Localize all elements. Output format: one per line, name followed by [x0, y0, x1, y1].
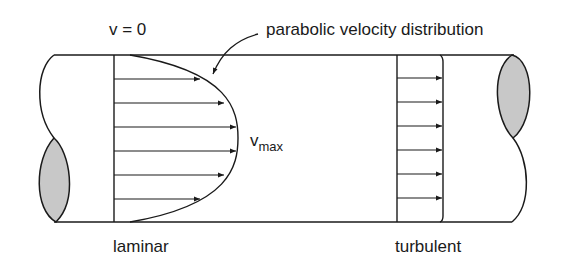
- vmax-subscript: max: [259, 139, 284, 154]
- turbulent-velocity-arrows: [397, 78, 442, 198]
- pipe-left-cut-section: [39, 138, 69, 222]
- pipe-left-end-curve: [40, 55, 54, 138]
- pipe-right-cut-section: [497, 55, 529, 138]
- max-velocity-label: vmax: [250, 132, 283, 149]
- pipe-right-end-curve: [512, 138, 526, 222]
- pipe-flow-diagram: [0, 0, 585, 266]
- parabolic-velocity-curve: [130, 55, 238, 222]
- wall-velocity-label: v = 0: [109, 21, 146, 38]
- vmax-main: v: [250, 131, 259, 150]
- parabolic-distribution-label: parabolic velocity distribution: [266, 21, 483, 38]
- parabolic-pointer-arrow: [213, 34, 258, 74]
- turbulent-label: turbulent: [395, 238, 461, 255]
- laminar-label: laminar: [113, 238, 169, 255]
- laminar-velocity-arrows: [114, 79, 236, 199]
- flat-velocity-profile: [440, 55, 443, 222]
